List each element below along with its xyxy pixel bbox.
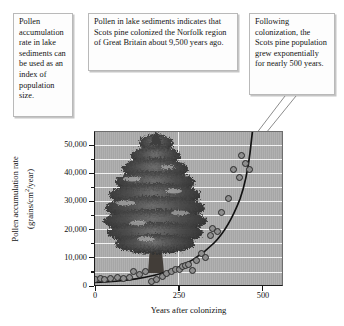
figure-root: Pollen accumulation rate in lake sedimen… (0, 0, 344, 326)
y-axis-title-line3: /year) (25, 169, 35, 189)
data-point (246, 166, 253, 173)
data-point (207, 232, 214, 239)
chart: 50,000 40,000 30,000 20,000 10,000 0 0 2… (0, 0, 344, 326)
data-point (142, 268, 149, 275)
data-point (214, 228, 221, 235)
y-tick-25000 (91, 215, 94, 216)
y-tick-30000 (89, 201, 94, 202)
y-tick-0 (89, 286, 94, 287)
y-axis-title-exponent: 2 (23, 189, 30, 192)
y-tick-5000 (91, 271, 94, 272)
plot-area (94, 131, 283, 286)
data-point (230, 166, 237, 173)
y-axis-title-line1: Pollen accumulation rate (10, 156, 20, 241)
y-tick-label-0: 0 (0, 282, 87, 290)
x-tick-label-0: 0 (79, 292, 111, 300)
y-tick-15000 (91, 243, 94, 244)
y-tick-40000 (89, 173, 94, 174)
y-tick-20000 (89, 229, 94, 230)
data-point (126, 274, 133, 281)
x-tick-label-500: 500 (247, 292, 279, 300)
y-tick-50000 (89, 145, 94, 146)
x-tick-label-250: 250 (163, 292, 195, 300)
data-point (236, 174, 243, 181)
y-tick-10000 (89, 257, 94, 258)
data-point (107, 275, 114, 282)
y-tick-35000 (91, 187, 94, 188)
data-point (225, 195, 232, 202)
y-axis-title-line2: (grains/cm (25, 192, 35, 229)
y-tick-45000 (91, 159, 94, 160)
data-point (238, 152, 245, 159)
x-axis-title: Years after colonizing (94, 305, 283, 315)
y-axis-title: Pollen accumulation rate (grains/cm2/yea… (10, 124, 36, 274)
